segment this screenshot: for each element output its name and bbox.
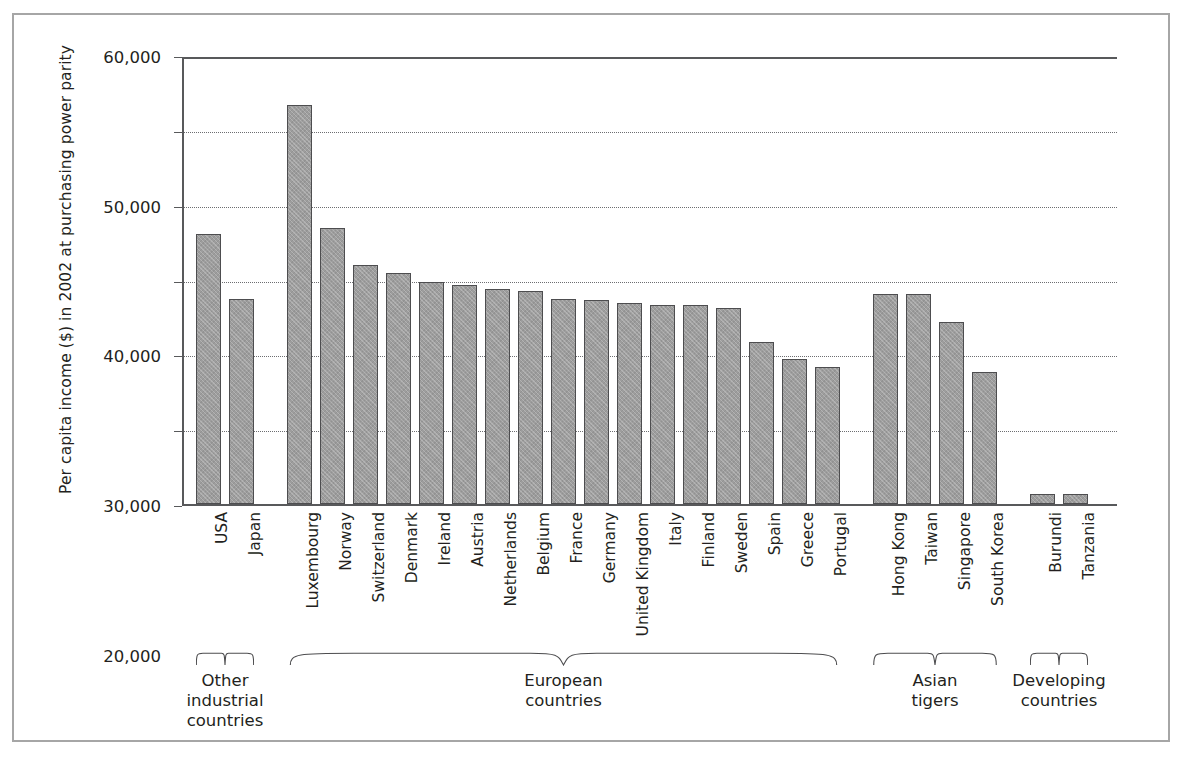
y-axis-tick-label: 50,000 [103, 198, 161, 217]
x-axis-label: Netherlands [504, 512, 520, 606]
group-brace [287, 651, 840, 667]
bar [749, 342, 774, 504]
x-axis-label: United Kingdom [636, 512, 652, 636]
y-axis-title: Per capita income ($) in 2002 at purchas… [57, 64, 75, 494]
x-axis-label: Portugal [834, 512, 850, 576]
x-axis-label: Germany [603, 512, 619, 583]
y-axis-tick: 10,000 [174, 431, 182, 432]
x-axis-label: Japan [248, 512, 264, 555]
x-axis-label: Greece [801, 512, 817, 567]
bar [452, 285, 477, 504]
y-axis-tick-label: 30,000 [103, 497, 161, 516]
group-brace [1030, 651, 1088, 667]
x-axis-category-labels: USAJapanLuxembourgNorwaySwitzerlandDenma… [182, 512, 1117, 642]
bar [551, 299, 576, 504]
y-axis-tick: 20,000 [174, 356, 182, 357]
bar [1063, 494, 1088, 504]
bar [716, 308, 741, 504]
group-label: European countries [454, 671, 674, 711]
y-axis-tick: 30,000 [174, 282, 182, 283]
bar [906, 294, 931, 504]
x-axis-label: Sweden [735, 512, 751, 573]
y-axis-tick: 60,000 [174, 57, 182, 58]
bar [353, 265, 378, 504]
y-axis-tick-label: 60,000 [103, 48, 161, 67]
group-annotations: Other industrial countriesEuropean count… [182, 651, 1117, 761]
x-axis-label: USA [215, 512, 231, 544]
y-axis-tick-label: 40,000 [103, 347, 161, 366]
x-axis-label: Switzerland [372, 512, 388, 602]
group-label: Other industrial countries [115, 671, 335, 731]
group-brace [873, 651, 997, 667]
y-axis-tick: 0 [174, 506, 182, 507]
x-axis-label: Ireland [438, 512, 454, 566]
x-axis-label: Luxembourg [306, 512, 322, 609]
plot-top-border [182, 57, 1117, 59]
bar [584, 300, 609, 504]
y-axis-line [182, 57, 184, 506]
bar [196, 234, 221, 505]
x-axis-label: South Korea [991, 512, 1007, 606]
bar [972, 372, 997, 504]
bar [873, 294, 898, 504]
gridline [182, 207, 1117, 208]
group-label: Developing countries [949, 671, 1169, 711]
x-axis-label: Austria [471, 512, 487, 567]
bar [617, 303, 642, 504]
x-axis-label: Belgium [537, 512, 553, 576]
plot-area: 010,00020,00030,00040,00050,00060,000 [182, 57, 1117, 506]
x-axis-line [182, 504, 1117, 506]
x-axis-label: Taiwan [925, 512, 941, 565]
y-axis-tick-label: 20,000 [103, 647, 161, 666]
bar [683, 305, 708, 504]
x-axis-label: Burundi [1049, 512, 1065, 573]
group-brace [196, 651, 254, 667]
bar [485, 289, 510, 505]
x-axis-label: France [570, 512, 586, 564]
x-axis-label: Denmark [405, 512, 421, 583]
y-axis-tick: 50,000 [174, 132, 182, 133]
bar [287, 105, 312, 505]
x-axis-label: Italy [669, 512, 685, 546]
bar [320, 228, 345, 505]
y-axis-tick: 40,000 [174, 207, 182, 208]
gridline [182, 132, 1117, 133]
bar [229, 299, 254, 505]
bar [650, 305, 675, 505]
bar [518, 291, 543, 504]
bar [815, 367, 840, 504]
figure-border: Per capita income ($) in 2002 at purchas… [12, 13, 1170, 742]
bar [386, 273, 411, 504]
bar [782, 359, 807, 504]
x-axis-label: Tanzania [1082, 512, 1098, 580]
figure: Per capita income ($) in 2002 at purchas… [0, 0, 1182, 763]
bar [419, 282, 444, 504]
x-axis-label: Spain [768, 512, 784, 555]
x-axis-label: Singapore [958, 512, 974, 590]
bar [1030, 494, 1055, 504]
x-axis-label: Finland [702, 512, 718, 567]
x-axis-label: Norway [339, 512, 355, 571]
x-axis-label: Hong Kong [892, 512, 908, 596]
bar [939, 322, 964, 505]
